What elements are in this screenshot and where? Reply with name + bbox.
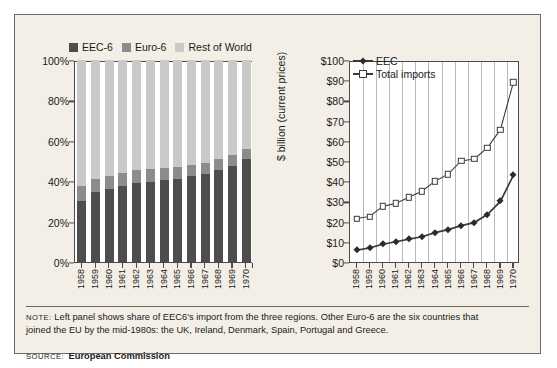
y-axis-tick-label: $100 [287, 55, 344, 67]
bar-segment [118, 173, 127, 186]
bar-segment [228, 60, 237, 155]
x-axis-tick-label: 1965 [172, 269, 182, 289]
footer-divider [26, 306, 529, 307]
bar-segment [160, 180, 169, 262]
y-axis-tick [69, 182, 74, 183]
bar-segment [173, 167, 182, 179]
left-chart-legend: EEC-6Euro-6Rest of World [69, 41, 252, 53]
y-axis-tick-label: 80% [25, 95, 69, 107]
x-axis-tick-label: 1959 [90, 269, 100, 289]
bar-segment [146, 169, 155, 182]
right-y-axis-title: $ billion (current prices) [275, 52, 287, 161]
data-point-square [393, 200, 399, 206]
data-point-square [379, 203, 385, 209]
y-axis-tick-label: $60 [287, 136, 344, 148]
x-axis-tick-label: 1961 [117, 269, 127, 289]
legend-label: Euro-6 [135, 41, 167, 53]
bar-segment [214, 159, 223, 170]
x-axis-tick [163, 263, 164, 268]
x-axis-tick-label: 1969 [227, 269, 237, 289]
x-axis-tick [136, 263, 137, 268]
y-axis-tick [344, 81, 349, 82]
y-axis-tick-label: 40% [25, 176, 69, 188]
x-axis-tick-label: 1961 [390, 269, 400, 289]
bar-segment [146, 60, 155, 169]
x-axis-tick [460, 263, 461, 268]
y-axis-tick [344, 182, 349, 183]
figure-frame: EEC-6Euro-6Rest of World 0%20%40%60%80%1… [14, 14, 541, 354]
x-axis-tick [95, 263, 96, 268]
bar-segment [242, 149, 251, 159]
x-axis-tick [369, 263, 370, 268]
bar-segment [214, 60, 223, 159]
bar-segment [118, 60, 127, 173]
x-axis-tick-label: 1963 [416, 269, 426, 289]
y-axis-tick [344, 101, 349, 102]
note-text-1: Left panel shows share of EEC6's import … [54, 312, 478, 322]
left-plot-area [74, 61, 252, 263]
bar-segment [91, 60, 100, 179]
data-point-square [406, 194, 412, 200]
y-axis-tick [344, 161, 349, 162]
x-axis-tick-label: 1968 [482, 269, 492, 289]
bar-segment [160, 60, 169, 168]
bar-segment [105, 189, 114, 262]
x-axis-tick-label: 1958 [76, 269, 86, 289]
legend-label: EEC [376, 55, 398, 67]
x-axis-tick [473, 263, 474, 268]
x-axis-tick-label: 1958 [351, 269, 361, 289]
y-axis-tick-label: $20 [287, 217, 344, 229]
diamond-marker-icon [359, 57, 366, 64]
data-point-square [432, 178, 438, 184]
bar-segment [77, 60, 86, 186]
x-axis-tick [395, 263, 396, 268]
x-axis-tick-label: 1967 [200, 269, 210, 289]
square-marker-icon [359, 70, 367, 78]
data-point-square [510, 79, 516, 85]
x-axis-tick [177, 263, 178, 268]
y-axis-tick-label: $80 [287, 95, 344, 107]
data-point-square [471, 156, 477, 162]
x-axis-tick-label: 1969 [495, 269, 505, 289]
x-axis-tick [252, 263, 253, 268]
bar-segment [160, 168, 169, 180]
bar-segment [77, 186, 86, 201]
x-axis-tick [408, 263, 409, 268]
legend-label: Total imports [376, 68, 436, 80]
bar-segment [91, 192, 100, 262]
source-text: European Commission [69, 351, 170, 361]
x-axis-tick-label: 1962 [403, 269, 413, 289]
legend-item-rest-of-world: Rest of World [175, 41, 251, 53]
y-axis-tick [344, 121, 349, 122]
x-axis-tick-label: 1966 [186, 269, 196, 289]
legend-item-total-imports: Total imports [353, 68, 436, 80]
bar-segment [132, 183, 141, 262]
bar-segment [105, 176, 114, 189]
x-axis-tick [499, 263, 500, 268]
bar-segment [228, 155, 237, 166]
x-axis-tick [122, 263, 123, 268]
y-axis-tick-label: $40 [287, 176, 344, 188]
bar-segment [173, 60, 182, 167]
x-axis-tick-label: 1963 [145, 269, 155, 289]
x-axis-tick-label: 1968 [213, 269, 223, 289]
x-axis-tick [204, 263, 205, 268]
x-axis-tick-label: 1967 [469, 269, 479, 289]
stacked-bar-chart: EEC-6Euro-6Rest of World 0%20%40%60%80%1… [25, 41, 280, 296]
y-axis-tick [344, 202, 349, 203]
bar-segment [91, 179, 100, 192]
bar-segment [187, 60, 196, 165]
x-axis-tick-label: 1970 [241, 269, 251, 289]
x-axis-tick-label: 1965 [443, 269, 453, 289]
bar-segment [242, 60, 251, 149]
legend-item-eec: EEC [353, 55, 398, 67]
legend-item-eec-6: EEC-6 [69, 41, 113, 53]
data-point-square [353, 215, 359, 221]
note-kicker: NOTE: [26, 313, 52, 322]
bar-segment [201, 60, 210, 163]
bar-segment [132, 170, 141, 183]
legend-label: EEC-6 [82, 41, 113, 53]
x-axis-tick-label: 1960 [104, 269, 114, 289]
y-axis-tick [69, 262, 74, 263]
data-point-square [497, 126, 503, 132]
